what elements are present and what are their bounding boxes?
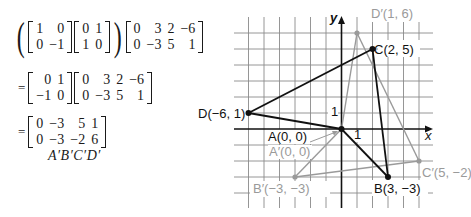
vertex-d — [246, 110, 252, 116]
y-axis-arrow-icon — [338, 16, 345, 24]
vertex-b-prime — [292, 174, 297, 179]
label-b-prime: B′(−3, −3) — [253, 181, 310, 196]
vertex-a — [339, 126, 345, 132]
label-a: A(0, 0) — [268, 129, 307, 144]
label-d: D(−6, 1) — [198, 106, 245, 121]
label-d-prime: D′(1, 6) — [371, 6, 413, 21]
label-b: B(3, −3) — [374, 181, 421, 196]
vertex-b — [385, 174, 391, 180]
coordinate-graph: y x 1 1 C(2, 5) D(−6, 1) A(0, 0) B(3, −3… — [0, 0, 471, 217]
x-axis-label: x — [424, 128, 432, 143]
y-axis-label: y — [329, 10, 338, 25]
label-a-prime: A′(0, 0) — [269, 144, 310, 159]
vertex-d-prime — [354, 30, 359, 35]
vertex-c-prime — [416, 158, 421, 163]
y-tick-label: 1 — [331, 104, 338, 119]
label-c: C(2, 5) — [374, 42, 414, 57]
label-c-prime: C′(5, −2) — [422, 165, 471, 180]
x-tick-label: 1 — [354, 127, 361, 142]
